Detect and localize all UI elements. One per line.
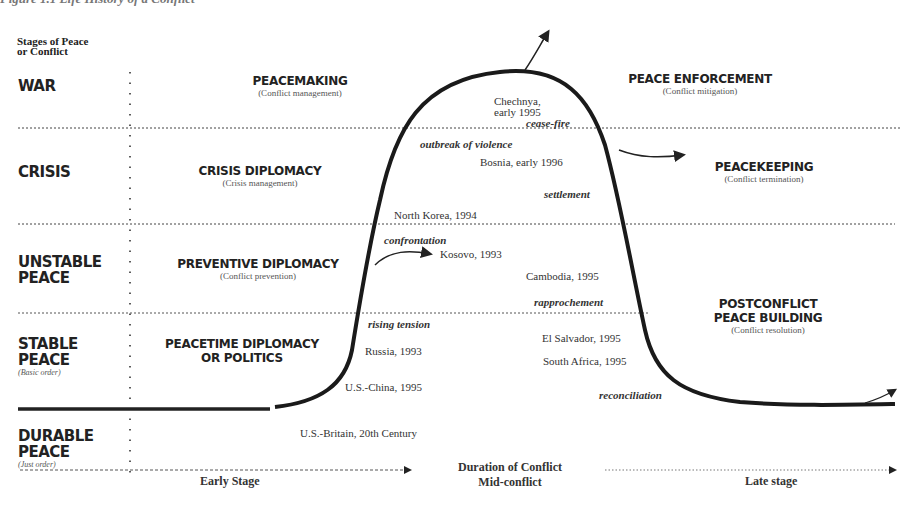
event-chechnya: Chechnya, early 1995 — [494, 96, 541, 118]
x-axis-title-block: Duration of Conflict Mid-conflict — [425, 460, 595, 490]
peace-enforcement-sub: (Conflict mitigation) — [628, 86, 772, 97]
crisis-diplomacy-sub: (Crisis management) — [198, 178, 321, 189]
peacekeeping-title: PEACEKEEPING — [715, 160, 814, 174]
stage-crisis: CRISIS — [18, 164, 70, 180]
stage-durable-line2: PEACE — [18, 444, 94, 460]
strategy-peacekeeping: PEACEKEEPING (Conflict termination) — [715, 160, 814, 185]
stage-stable-peace: STABLE PEACE (Basic order) — [18, 336, 78, 378]
phase-settlement: settlement — [544, 188, 590, 200]
phase-cease-fire: cease-fire — [526, 117, 570, 129]
strategy-postconflict: POSTCONFLICT PEACE BUILDING (Conflict re… — [714, 297, 823, 336]
peace-enforcement-title: PEACE ENFORCEMENT — [628, 72, 772, 86]
peacekeeping-sub: (Conflict termination) — [715, 174, 814, 185]
diagram-lines — [0, 0, 911, 520]
strategy-peacetime-diplomacy: PEACETIME DIPLOMACY OR POLITICS — [165, 337, 319, 365]
arrow-end-up-icon — [865, 390, 895, 403]
postconflict-line1: POSTCONFLICT — [714, 297, 823, 311]
phase-outbreak: outbreak of violence — [420, 138, 512, 150]
peacetime-line1: PEACETIME DIPLOMACY — [165, 337, 319, 351]
peacemaking-sub: (Conflict management) — [253, 88, 348, 99]
stage-unstable-line1: UNSTABLE — [18, 254, 101, 270]
event-cambodia: Cambodia, 1995 — [526, 271, 599, 282]
arrow-kosovo-icon — [375, 252, 430, 265]
stage-durable-line1: DURABLE — [18, 428, 94, 444]
x-label-late: Late stage — [745, 474, 797, 489]
event-south-africa: South Africa, 1995 — [543, 356, 626, 367]
event-us-china: U.S.-China, 1995 — [345, 382, 422, 393]
strategy-crisis-diplomacy: CRISIS DIPLOMACY (Crisis management) — [198, 164, 321, 189]
peacemaking-title: PEACEMAKING — [253, 74, 348, 88]
event-kosovo: Kosovo, 1993 — [440, 249, 502, 260]
postconflict-sub: (Conflict resolution) — [714, 325, 823, 336]
stage-stable-line2: PEACE — [18, 352, 78, 368]
phase-rising-tension: rising tension — [368, 318, 430, 330]
stage-war-label: WAR — [18, 77, 56, 95]
event-north-korea: North Korea, 1994 — [394, 210, 477, 221]
postconflict-line2: PEACE BUILDING — [714, 311, 823, 325]
x-axis-title: Duration of Conflict — [425, 460, 595, 475]
stage-crisis-label: CRISIS — [18, 163, 70, 181]
stage-unstable-peace: UNSTABLE PEACE — [18, 254, 101, 286]
stage-war: WAR — [18, 78, 56, 94]
x-label-mid: Mid-conflict — [425, 475, 595, 490]
stage-stable-line1: STABLE — [18, 336, 78, 352]
preventive-diplomacy-sub: (Conflict prevention) — [177, 271, 338, 282]
stage-unstable-line2: PEACE — [18, 270, 101, 286]
event-russia: Russia, 1993 — [365, 346, 422, 357]
stage-stable-sub: (Basic order) — [18, 368, 78, 378]
crisis-diplomacy-title: CRISIS DIPLOMACY — [198, 164, 321, 178]
phase-reconciliation: reconciliation — [599, 389, 662, 401]
arrow-right-peacekeeping-icon — [619, 150, 683, 157]
strategy-peace-enforcement: PEACE ENFORCEMENT (Conflict mitigation) — [628, 72, 772, 97]
x-label-early: Early Stage — [200, 474, 260, 489]
phase-confrontation: confrontation — [384, 234, 446, 246]
stage-durable-sub: (Just order) — [18, 460, 94, 470]
strategy-peacemaking: PEACEMAKING (Conflict management) — [253, 74, 348, 99]
event-el-salvador: El Salvador, 1995 — [542, 333, 621, 344]
arrow-up-icon — [525, 32, 548, 70]
phase-rapprochement: rapprochement — [534, 296, 603, 308]
peacetime-line2: OR POLITICS — [165, 351, 319, 365]
preventive-diplomacy-title: PREVENTIVE DIPLOMACY — [177, 257, 338, 271]
stage-durable-peace: DURABLE PEACE (Just order) — [18, 428, 94, 470]
event-bosnia: Bosnia, early 1996 — [480, 157, 563, 168]
event-us-britain: U.S.-Britain, 20th Century — [300, 428, 417, 439]
strategy-preventive-diplomacy: PREVENTIVE DIPLOMACY (Conflict preventio… — [177, 257, 338, 282]
